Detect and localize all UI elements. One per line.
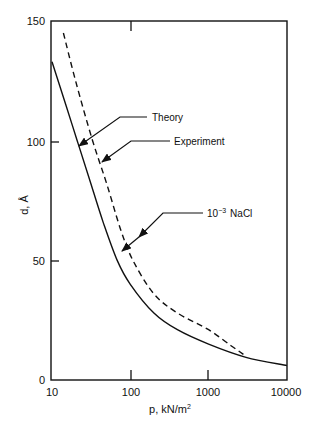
experiment-arrow bbox=[102, 141, 170, 162]
x-tick-1000: 1000 bbox=[196, 386, 220, 398]
y-tick-50: 50 bbox=[33, 255, 45, 267]
y-tick-0: 0 bbox=[39, 374, 45, 386]
nacl-label: 10−3NaCl bbox=[207, 207, 252, 219]
experiment-label: Experiment bbox=[174, 136, 225, 147]
x-axis-label: p, kN/m2 bbox=[149, 403, 191, 415]
series-layer bbox=[52, 33, 287, 366]
y-axis-label: d, Å bbox=[18, 195, 30, 215]
y-axis: 0 50 100 150 d, Å bbox=[18, 15, 59, 386]
experiment-curve bbox=[63, 33, 246, 356]
y-tick-150: 150 bbox=[27, 15, 45, 27]
chart-figure: 10 100 1000 10000 p, kN/m2 0 50 100 150 … bbox=[0, 0, 317, 428]
annotations: Theory Experiment 10−3NaCl bbox=[79, 112, 252, 251]
x-tick-10: 10 bbox=[46, 386, 58, 398]
x-tick-10000: 10000 bbox=[271, 386, 302, 398]
y-tick-100: 100 bbox=[27, 136, 45, 148]
x-axis: 10 100 1000 10000 p, kN/m2 bbox=[46, 21, 301, 415]
theory-label: Theory bbox=[152, 112, 183, 123]
plot-frame bbox=[51, 21, 287, 380]
nacl-arrow-experiment bbox=[139, 213, 203, 237]
x-tick-100: 100 bbox=[122, 386, 140, 398]
